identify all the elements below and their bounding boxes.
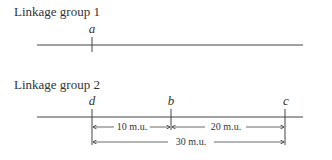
distance-label-db: 10 m.u. bbox=[114, 121, 150, 132]
gene-label-b: b bbox=[168, 93, 175, 109]
gene-label-a: a bbox=[89, 21, 96, 37]
distance-label-dc: 30 m.u. bbox=[173, 136, 209, 147]
distance-label-bc: 20 m.u. bbox=[208, 121, 244, 132]
group-2-title: Linkage group 2 bbox=[14, 77, 100, 93]
gene-label-d: d bbox=[89, 93, 96, 109]
gene-label-c: c bbox=[283, 93, 289, 109]
group-1-title: Linkage group 1 bbox=[14, 4, 100, 20]
